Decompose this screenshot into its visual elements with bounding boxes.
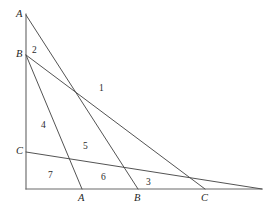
figure-canvas bbox=[0, 0, 277, 211]
segment-A-top-to-B-bottom bbox=[26, 15, 138, 189]
geometry-diagram: A B C A B C 1 2 3 4 5 6 7 bbox=[0, 0, 277, 211]
segment-B-top-to-C-right bbox=[26, 55, 205, 189]
segment-C-left-to-C-right bbox=[26, 152, 262, 189]
segments-group bbox=[26, 15, 262, 189]
axes-group bbox=[26, 14, 262, 189]
segment-B-top-to-A-bottom bbox=[26, 55, 82, 189]
